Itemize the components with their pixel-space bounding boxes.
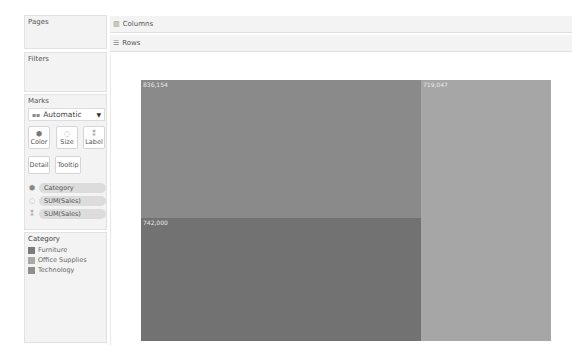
legend-label: Office Supplies (38, 256, 87, 264)
legend-item-furniture[interactable]: Furniture (25, 245, 106, 255)
filters-title: Filters (25, 53, 106, 65)
size-button[interactable]: ◌ Size (56, 126, 78, 149)
legend-item-office-supplies[interactable]: Office Supplies (25, 255, 106, 265)
legend-item-technology[interactable]: Technology (25, 265, 106, 275)
detail-label: Detail (29, 161, 48, 169)
color-label: Color (31, 138, 48, 146)
legend-label: Furniture (38, 246, 67, 254)
detail-button[interactable]: Detail (28, 156, 50, 174)
marks-card: Marks ▪▪ Automatic ▼ ⬢ Color ◌ Size ⁑ La… (24, 94, 107, 230)
mark-type-dropdown[interactable]: ▪▪ Automatic ▼ (28, 108, 105, 121)
legend-swatch (28, 267, 35, 274)
columns-shelf[interactable]: ▥ Columns (110, 16, 572, 33)
columns-label: Columns (123, 20, 153, 28)
size-label: Size (60, 138, 73, 146)
marks-pill-label-sales[interactable]: ⁑ SUM(Sales) (28, 209, 106, 219)
treemap-value-label: 836,154 (143, 81, 168, 88)
size-icon: ◌ (64, 130, 70, 138)
label-icon: ⁑ (92, 130, 96, 138)
treemap-value-label: 719,047 (423, 81, 448, 88)
tooltip-button[interactable]: Tooltip (55, 156, 81, 174)
legend-swatch (28, 257, 35, 264)
rows-shelf[interactable]: ☰ Rows (110, 35, 572, 52)
rows-label: Rows (122, 39, 140, 47)
marks-title: Marks (25, 95, 106, 107)
sum-sales-size-pill[interactable]: SUM(Sales) (39, 196, 106, 206)
rows-icon: ☰ (113, 39, 119, 47)
marks-pill-category[interactable]: ⬢ Category (28, 183, 106, 193)
size-icon: ◌ (28, 197, 36, 205)
tooltip-label: Tooltip (57, 161, 78, 169)
legend-label: Technology (38, 266, 74, 274)
label-button[interactable]: ⁑ Label (83, 126, 105, 149)
pages-card: Pages (24, 15, 107, 49)
treemap-cell-technology[interactable]: 836,154 (141, 80, 421, 218)
marks-pill-size-sales[interactable]: ◌ SUM(Sales) (28, 196, 106, 206)
color-icon: ⬢ (28, 184, 36, 192)
label-icon: ⁑ (28, 210, 36, 218)
pages-title: Pages (25, 16, 106, 28)
color-icon: ⬢ (36, 130, 42, 138)
treemap-cell-office-supplies[interactable]: 719,047 (421, 80, 551, 341)
chevron-down-icon: ▼ (96, 111, 101, 118)
treemap-cell-furniture[interactable]: 742,000 (141, 218, 421, 341)
columns-icon: ▥ (113, 20, 120, 28)
category-legend: Category Furniture Office Supplies Techn… (24, 232, 107, 343)
sum-sales-label-pill[interactable]: SUM(Sales) (39, 209, 106, 219)
legend-title: Category (25, 233, 106, 245)
label-label: Label (85, 138, 103, 146)
mark-type-icon: ▪▪ (32, 111, 40, 118)
treemap-value-label: 742,000 (143, 219, 168, 226)
color-button[interactable]: ⬢ Color (28, 126, 50, 149)
legend-swatch (28, 247, 35, 254)
mark-type-value: Automatic (43, 110, 81, 119)
category-pill[interactable]: Category (39, 183, 106, 193)
filters-card[interactable]: Filters (24, 52, 107, 92)
